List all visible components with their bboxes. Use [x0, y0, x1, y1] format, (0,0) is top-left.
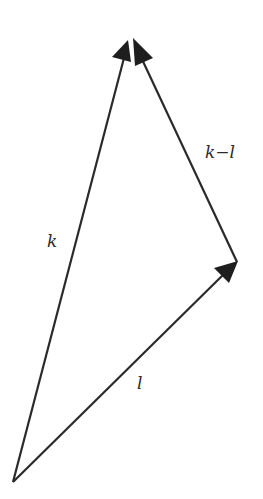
- arrowhead-k-icon: [112, 40, 131, 62]
- arrowhead-k-minus-l-icon: [133, 38, 153, 66]
- label-k-minus-l: k−l: [205, 142, 235, 162]
- vector-k: [13, 40, 131, 482]
- label-k: k: [47, 231, 57, 251]
- vector-diagram: k l k−l: [0, 0, 263, 499]
- vector-l: [13, 261, 238, 482]
- label-l: l: [137, 373, 142, 393]
